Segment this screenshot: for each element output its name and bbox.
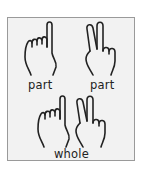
one-finger-hand-icon xyxy=(23,21,61,77)
whole-two-finger-hand-icon xyxy=(73,95,115,149)
two-finger-hand-icon xyxy=(83,21,125,77)
whole-label: whole xyxy=(54,149,89,161)
part-label-right: part xyxy=(90,80,114,92)
whole-one-finger-hand-icon xyxy=(36,95,74,149)
part-label-left: part xyxy=(28,80,52,92)
part-whole-card: part part whole xyxy=(7,17,135,161)
